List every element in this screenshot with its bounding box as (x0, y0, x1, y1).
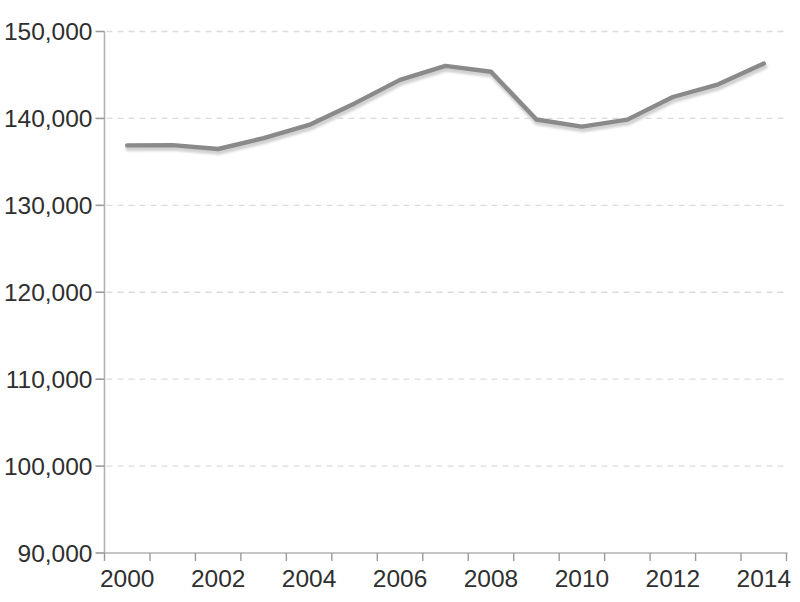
x-axis-label: 2006 (373, 565, 428, 592)
y-axis-label: 110,000 (6, 366, 93, 393)
y-axis-label: 100,000 (4, 453, 93, 480)
y-axis-label: 150,000 (4, 18, 93, 45)
x-axis-label: 2012 (646, 565, 701, 592)
y-axis-label: 130,000 (4, 192, 93, 219)
y-axis-label: 120,000 (4, 279, 93, 306)
y-axis-label: 140,000 (4, 105, 93, 132)
x-axis-label: 2010 (555, 565, 610, 592)
y-axis-label: 90,000 (18, 540, 93, 567)
x-axis-label: 2000 (100, 565, 155, 592)
employment-line-chart: 90,000100,000110,000120,000130,000140,00… (0, 0, 800, 602)
chart-page: 90,000100,000110,000120,000130,000140,00… (0, 0, 800, 602)
x-axis-label: 2004 (282, 565, 337, 592)
x-axis-label: 2014 (737, 565, 792, 592)
x-axis-label: 2002 (191, 565, 246, 592)
chart-background (0, 0, 800, 602)
x-axis-label: 2008 (464, 565, 519, 592)
